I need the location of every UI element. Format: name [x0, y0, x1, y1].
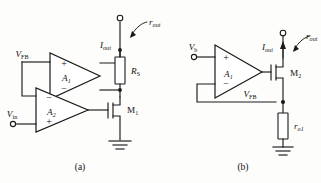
- label-vin-a: Vin: [7, 109, 17, 120]
- terminal-output-a[interactable]: [117, 15, 123, 21]
- amplifier-a1-b-triangle: [215, 45, 262, 98]
- label-ro1-b: ro1: [294, 121, 304, 132]
- amplifier-a1-a-triangle: [50, 53, 100, 99]
- arrowhead-rout-b: [293, 45, 299, 52]
- resistor-ro1-b: [278, 113, 288, 139]
- resistor-rs-a: [115, 57, 125, 84]
- amplifier-a1-a: + − A1: [50, 53, 100, 99]
- label-rout-a: rout: [149, 17, 161, 28]
- caption-b: (b): [237, 162, 248, 173]
- ground-symbol-a: [109, 141, 131, 149]
- mosfet-m2-source-lead-b: [276, 78, 283, 102]
- node-dot-top-a: [118, 48, 122, 52]
- label-rs-a: RS: [130, 66, 141, 77]
- arrowhead-iout-b: [280, 41, 286, 49]
- amplifier-a1-a-plus-sign: +: [61, 58, 67, 69]
- label-m1-a: M1: [127, 105, 138, 116]
- circuit-b-group: + − A1 Vb VFB M2: [189, 30, 318, 173]
- amplifier-a2-a-minus-sign: −: [46, 92, 52, 103]
- node-dot-bottom-a: [118, 88, 122, 92]
- mosfet-m2-drain-lead-b: [276, 36, 283, 67]
- label-vb-b: Vb: [189, 42, 198, 53]
- label-iout-b: Iout: [261, 42, 273, 53]
- caption-a: (a): [75, 162, 86, 173]
- amplifier-a1-b: + − A1: [215, 45, 262, 98]
- terminal-vin-a[interactable]: [10, 121, 15, 126]
- mosfet-m1-source-lead-a: [113, 116, 120, 140]
- amplifier-a2-a-plus-sign: +: [46, 116, 52, 127]
- label-vfb-a: VFB: [15, 49, 28, 60]
- label-m2-b: M2: [290, 68, 301, 79]
- arrowhead-rout-a: [130, 31, 136, 38]
- label-rout-b: rout: [306, 31, 318, 42]
- ground-symbol-b: [273, 147, 293, 155]
- amplifier-a1-a-minus-sign: −: [61, 83, 67, 94]
- amplifier-a2-a: − + A2: [36, 88, 88, 132]
- circuit-diagram-svg: + − A1 − + A2 VFB Vin: [0, 0, 321, 183]
- label-vfb-b: VFB: [243, 89, 256, 100]
- wire-vfb-feedback-a: [22, 62, 36, 96]
- amplifier-a1-b-minus-sign: −: [223, 78, 229, 89]
- figure-container: + − A1 − + A2 VFB Vin: [0, 0, 321, 183]
- terminal-vb-b[interactable]: [191, 54, 196, 59]
- circuit-a-group: + − A1 − + A2 VFB Vin: [7, 15, 161, 173]
- amplifier-a1-b-plus-sign: +: [223, 52, 229, 63]
- mosfet-m1-drain-lead-a: [113, 97, 120, 105]
- mosfet-m1-a: M1: [108, 97, 138, 140]
- label-iout-a: Iout: [99, 40, 111, 51]
- terminal-output-b[interactable]: [280, 30, 286, 36]
- amplifier-a2-a-triangle: [36, 88, 88, 132]
